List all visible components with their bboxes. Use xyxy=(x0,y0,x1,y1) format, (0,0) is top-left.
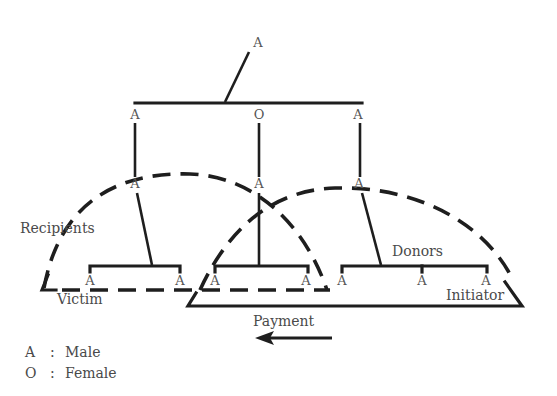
node-donor-male-1: A xyxy=(336,273,347,288)
node-gen2-female: O xyxy=(254,107,265,122)
node-victim-male-2: A xyxy=(174,273,185,288)
legend-female-sep: : xyxy=(50,365,55,381)
legend: A : Male O : Female xyxy=(24,344,117,381)
legend-female-meaning: Female xyxy=(65,365,117,381)
initiator-label: Initiator xyxy=(446,287,505,303)
legend-male-symbol: A xyxy=(24,344,36,360)
payment-arrow-icon xyxy=(255,331,332,345)
node-gen2-male-right: A xyxy=(352,107,363,122)
node-gen3-male-right: A xyxy=(353,176,364,191)
legend-male-meaning: Male xyxy=(65,344,100,360)
legend-female-symbol: O xyxy=(25,365,36,381)
genealogy-lines xyxy=(90,52,487,272)
victim-label: Victim xyxy=(56,291,103,307)
node-middle-male-2: A xyxy=(300,273,311,288)
payment-label: Payment xyxy=(253,313,315,329)
node-gen3-male-middle: A xyxy=(253,176,264,191)
node-victim-male-1: A xyxy=(84,273,95,288)
node-gen2-male-left: A xyxy=(129,107,140,122)
recipients-label: Recipients xyxy=(20,220,95,236)
node-top-male: A xyxy=(252,35,263,50)
node-initiator-male: A xyxy=(480,273,491,288)
node-middle-male-1: A xyxy=(209,273,220,288)
kinship-payment-diagram: A A O A A A A A A A A A A A Recipients D… xyxy=(0,0,557,396)
legend-male-sep: : xyxy=(50,344,55,360)
node-gen3-male-left: A xyxy=(129,176,140,191)
donors-label: Donors xyxy=(392,243,443,259)
node-donor-male-2: A xyxy=(416,273,427,288)
